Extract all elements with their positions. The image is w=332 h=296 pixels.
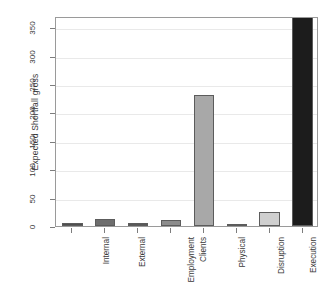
y-tick-label: 250 — [28, 72, 38, 98]
x-tick-label: External — [138, 237, 148, 267]
x-tick-mark — [71, 228, 72, 233]
y-tick-label: 0 — [28, 214, 38, 240]
y-tick-label: 150 — [28, 129, 38, 155]
x-tick-label: Internal — [103, 237, 113, 264]
x-tick-mark — [137, 228, 138, 233]
x-tick-label: Execution — [309, 237, 319, 273]
x-tick-mark — [170, 228, 171, 233]
y-tick-mark — [50, 227, 55, 228]
x-tick-label: Employment — [187, 237, 197, 283]
y-tick-label: 50 — [28, 186, 38, 212]
plot-area — [55, 17, 318, 227]
x-tick-mark — [236, 228, 237, 233]
y-tick-label: 100 — [28, 157, 38, 183]
x-tick-label: Disruption — [277, 237, 287, 274]
bar — [128, 223, 148, 226]
bar — [259, 212, 279, 226]
y-tick-label: 350 — [28, 15, 38, 41]
y-tick-label: 300 — [28, 44, 38, 70]
x-tick-label: Physical — [237, 237, 247, 268]
x-tick-mark — [104, 228, 105, 233]
x-tick-mark — [269, 228, 270, 233]
bar — [194, 95, 214, 226]
bar — [161, 220, 181, 226]
bar — [292, 17, 312, 226]
bar — [62, 223, 82, 226]
bars-layer — [56, 18, 317, 226]
x-tick-label: Clients — [199, 237, 209, 262]
x-tick-mark — [302, 228, 303, 233]
bar — [227, 224, 247, 227]
bar — [95, 219, 115, 226]
y-tick-label: 200 — [28, 100, 38, 126]
x-tick-mark — [203, 228, 204, 233]
bar-chart: Expected Shortfall gross 050100150200250… — [0, 0, 332, 296]
